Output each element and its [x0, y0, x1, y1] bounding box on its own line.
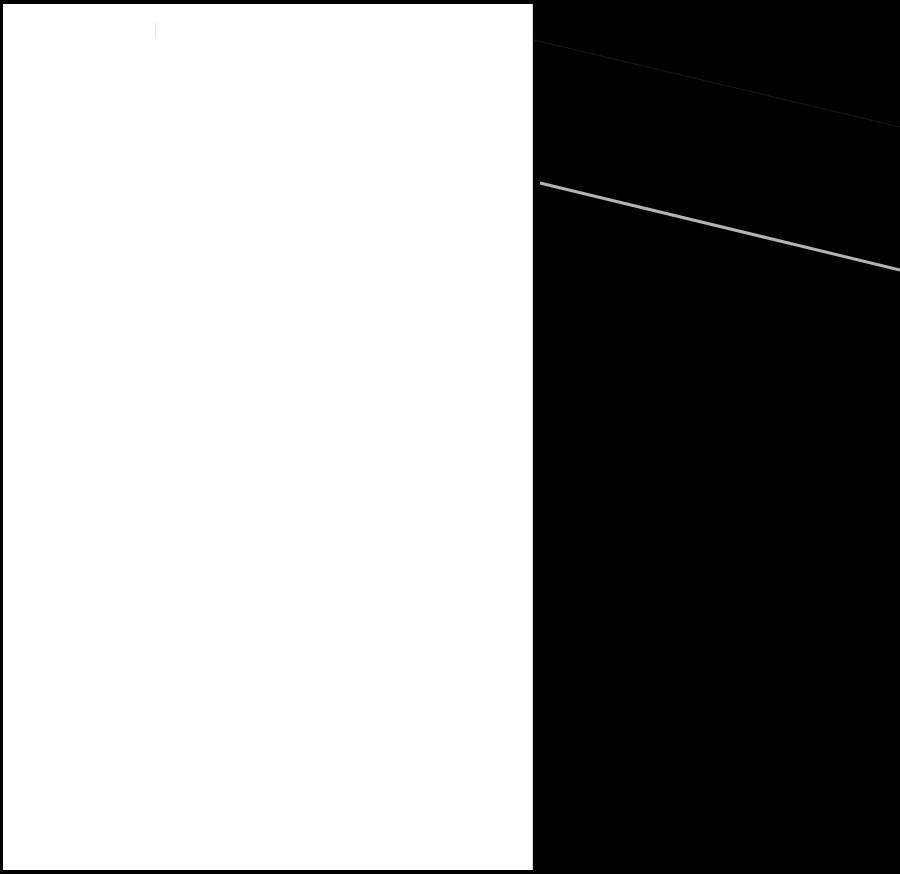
grey-diagonal-line — [540, 183, 900, 270]
screen-canvas — [0, 0, 900, 874]
text-caret — [155, 22, 156, 38]
blank-white-panel — [3, 4, 533, 870]
faint-diagonal-line — [534, 40, 900, 127]
